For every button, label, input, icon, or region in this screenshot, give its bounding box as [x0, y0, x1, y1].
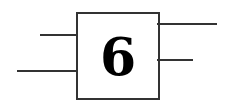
block-label: 6	[100, 31, 136, 83]
function-block: 6	[76, 12, 160, 100]
input-wire-1	[40, 34, 77, 36]
output-wire-1	[157, 23, 217, 25]
input-wire-2	[17, 70, 77, 72]
block-diagram: 6	[0, 0, 228, 107]
output-wire-2	[157, 59, 193, 61]
